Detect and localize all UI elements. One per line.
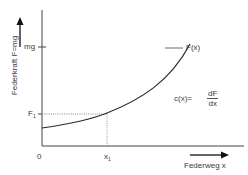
origin-label: 0 — [37, 153, 41, 161]
f1-subscript: 1 — [33, 113, 36, 119]
formula-lhs: c(x)= — [174, 95, 192, 103]
f1-tick-label: F1 — [28, 110, 36, 119]
x1-subscript: 1 — [108, 156, 111, 162]
force-curve — [42, 44, 190, 128]
y-axis-label: Federkraft F=mg — [10, 26, 19, 106]
curve-label: F(x) — [186, 44, 200, 52]
diagram-canvas — [0, 0, 248, 175]
x-direction-arrow-icon — [190, 152, 229, 159]
formula-numerator: dF — [207, 89, 218, 99]
x-axis-label: Federweg x — [184, 162, 226, 170]
mg-tick-label: mg — [24, 43, 35, 51]
x1-tick-label: x1 — [104, 153, 111, 162]
formula-denominator: dx — [207, 99, 218, 108]
formula-fraction: dF dx — [207, 89, 218, 108]
